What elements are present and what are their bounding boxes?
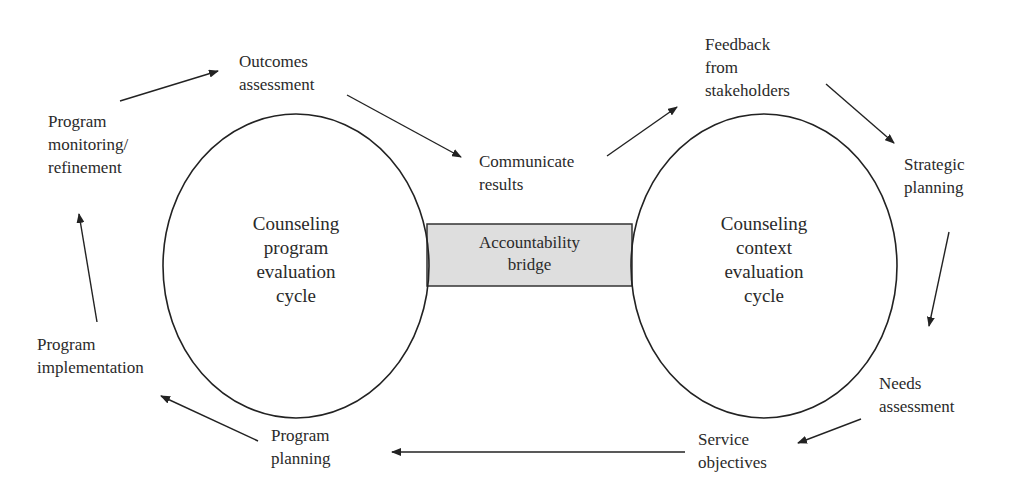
node-feedback-from-stakeholders: Feedback from stakeholders — [705, 33, 790, 102]
node-communicate-results: Communicate results — [479, 150, 574, 196]
left-cycle-label: Counseling program evaluation cycle — [216, 212, 376, 308]
node-strategic-planning: Strategic planning — [904, 153, 964, 199]
arrow-communicate-to-feedback — [607, 107, 677, 156]
arrow-strategic-to-needs — [929, 232, 949, 326]
arrow-planning-to-implementation — [161, 396, 258, 441]
node-service-objectives: Service objectives — [698, 428, 767, 474]
arrow-outcomes-to-communicate — [347, 95, 461, 157]
accountability-bridge-label: Accountability bridge — [427, 232, 632, 276]
arrow-implementation-to-monitoring — [79, 214, 97, 322]
node-program-planning: Program planning — [271, 424, 331, 470]
right-cycle-label: Counseling context evaluation cycle — [684, 212, 844, 308]
arrow-monitoring-to-outcomes — [120, 71, 218, 101]
node-program-implementation: Program implementation — [37, 333, 144, 379]
node-outcomes-assessment: Outcomes assessment — [239, 50, 315, 96]
arrow-feedback-to-strategic — [826, 84, 894, 143]
node-program-monitoring: Program monitoring/ refinement — [48, 110, 128, 179]
node-needs-assessment: Needs assessment — [879, 372, 955, 418]
arrow-needs-to-service — [798, 419, 861, 443]
